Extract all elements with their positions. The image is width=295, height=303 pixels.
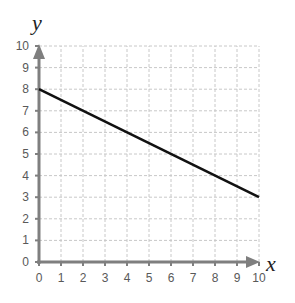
axes: [33, 44, 260, 268]
y-tick-label: 3: [22, 190, 29, 204]
x-tick-label: 2: [80, 271, 87, 285]
y-tick-label: 9: [22, 61, 29, 75]
x-axis-label: x: [265, 251, 276, 276]
y-tick-label: 8: [22, 82, 29, 96]
y-tick-label: 0: [22, 255, 29, 269]
x-tick-label: 9: [234, 271, 241, 285]
x-tick-label: 8: [212, 271, 219, 285]
y-tick-label: 2: [22, 212, 29, 226]
axis-ticks: [35, 46, 259, 266]
x-tick-labels: 012345678910: [36, 271, 266, 285]
y-tick-label: 4: [22, 169, 29, 183]
x-tick-label: 7: [190, 271, 197, 285]
grid-lines: [39, 46, 259, 262]
y-tick-label: 5: [22, 147, 29, 161]
x-axis-arrow-icon: [246, 256, 260, 268]
x-tick-label: 3: [102, 271, 109, 285]
x-tick-label: 5: [146, 271, 153, 285]
y-tick-labels: 012345678910: [16, 39, 30, 269]
y-tick-label: 6: [22, 125, 29, 139]
x-tick-label: 6: [168, 271, 175, 285]
y-tick-label: 1: [22, 233, 29, 247]
line-chart: 012345678910 012345678910 x y: [0, 0, 295, 303]
y-axis-label: y: [30, 10, 42, 35]
x-tick-label: 10: [252, 271, 266, 285]
x-tick-label: 4: [124, 271, 131, 285]
x-tick-label: 1: [58, 271, 65, 285]
x-tick-label: 0: [36, 271, 43, 285]
y-tick-label: 7: [22, 104, 29, 118]
y-tick-label: 10: [16, 39, 30, 53]
